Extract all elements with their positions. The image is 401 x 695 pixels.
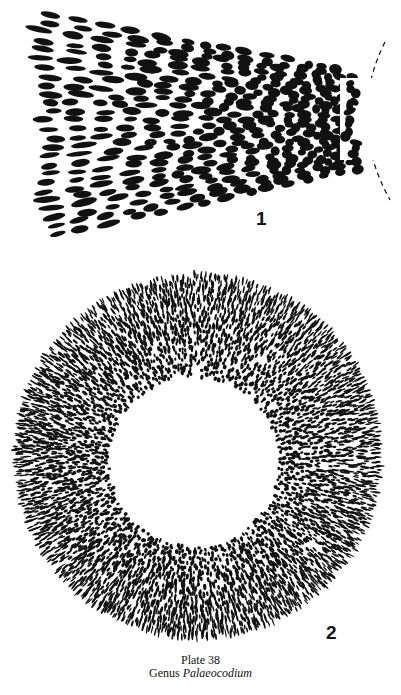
figure-2-label: 2: [326, 623, 337, 642]
figure-1-longitudinal-section: [25, 10, 365, 239]
figure-1-dashed-outline: [338, 42, 390, 200]
figure-2-transverse-section: [11, 270, 385, 643]
genus-caption: Genus Palaeocodium: [0, 667, 401, 680]
genus-prefix: Genus: [149, 666, 180, 680]
figure-1-label: 1: [256, 209, 267, 228]
plate-figures: [0, 0, 401, 695]
genus-name: Palaeocodium: [183, 666, 252, 680]
